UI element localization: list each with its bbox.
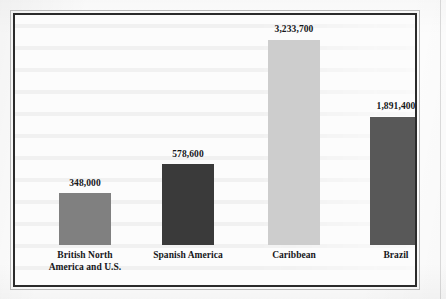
scan-edge-line [440, 0, 441, 299]
bar-group: 348,000 British North America and U.S. [30, 15, 140, 285]
bar-value-label: 1,891,400 [377, 101, 416, 111]
bar-chart: 348,000 British North America and U.S. 5… [13, 13, 417, 287]
scanned-page: 348,000 British North America and U.S. 5… [0, 0, 446, 299]
bar-value-label: 348,000 [69, 178, 101, 188]
bar-value-label: 578,600 [172, 149, 204, 159]
bar-rect [268, 40, 320, 245]
bar-rect [370, 117, 417, 245]
bar-value-label: 3,233,700 [275, 24, 314, 34]
bar-group: 578,600 Spanish America [133, 15, 243, 285]
bar-category-label: British North America and U.S. [49, 250, 122, 273]
bar-category-label: Caribbean [272, 250, 316, 262]
plot-area: 348,000 British North America and U.S. 5… [15, 15, 415, 285]
bar-category-label: Brazil [383, 250, 408, 262]
bar-rect [59, 193, 111, 245]
bar-rect [162, 164, 214, 245]
bar-category-label: Spanish America [153, 250, 223, 262]
bar-group: 3,233,700 Caribbean [239, 15, 349, 285]
bar-group: 1,891,400 Brazil [341, 15, 417, 285]
